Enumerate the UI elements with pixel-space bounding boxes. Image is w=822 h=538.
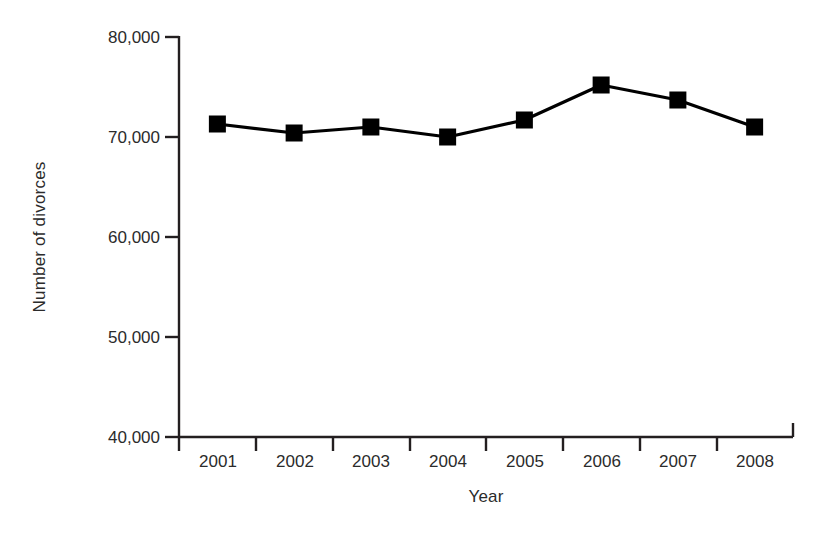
x-axis-title: Year: [179, 487, 793, 507]
data-point-marker: [362, 119, 379, 136]
axes: [165, 36, 793, 451]
line-chart: Number of divorces 40,000 50,000 60,000 …: [0, 0, 822, 538]
data-point-marker: [516, 112, 533, 129]
data-point-marker: [593, 77, 610, 94]
x-axis-tick-labels: 2001 2002 2003 2004 2005 2006 2007 2008: [179, 452, 793, 478]
data-point-marker: [286, 125, 303, 142]
data-point-marker: [439, 129, 456, 146]
data-series: [209, 77, 763, 146]
data-point-marker: [669, 92, 686, 109]
data-point-marker: [746, 119, 763, 136]
data-point-marker: [209, 116, 226, 133]
x-tick-label: 2008: [710, 452, 800, 472]
